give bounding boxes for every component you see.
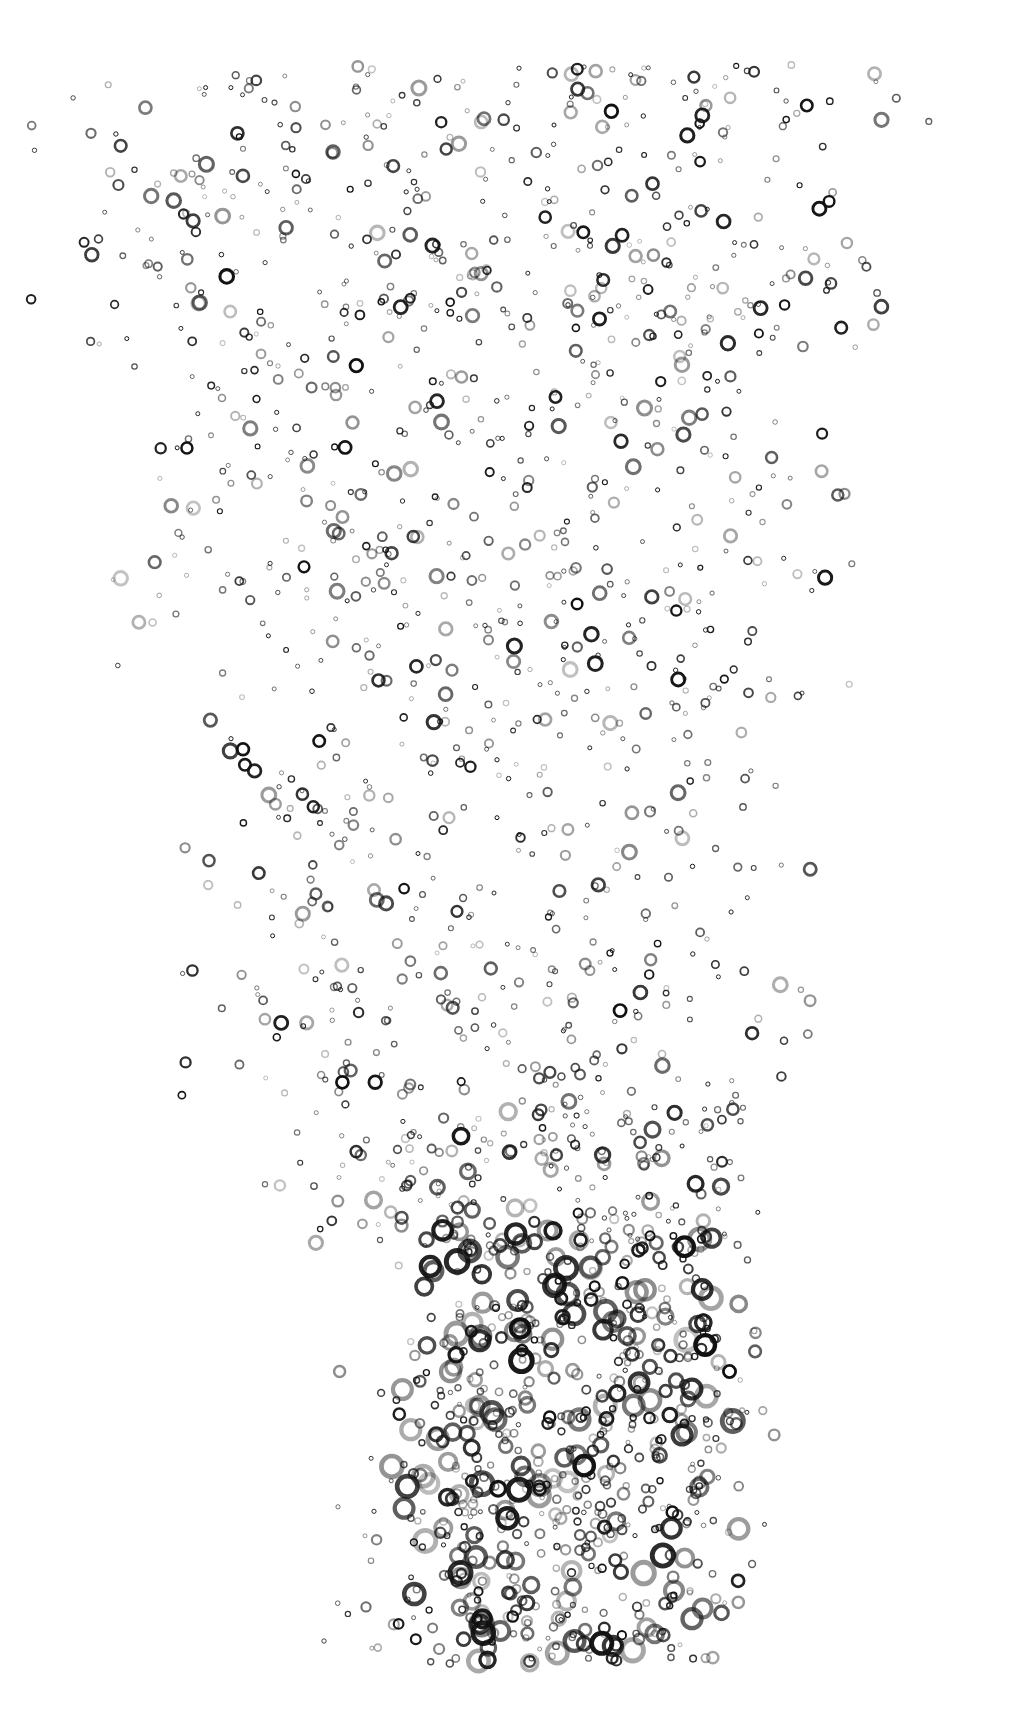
- bubble: [190, 375, 194, 379]
- bubble: [668, 1654, 674, 1660]
- bubble: [723, 454, 728, 459]
- bubble: [641, 278, 646, 283]
- bubble: [528, 667, 532, 671]
- bubble: [708, 1157, 713, 1162]
- bubble: [683, 411, 696, 424]
- bubble: [687, 778, 693, 784]
- bubble: [767, 677, 772, 682]
- bubble: [505, 237, 510, 242]
- bubble: [562, 461, 566, 465]
- bubble: [591, 381, 595, 385]
- bubble: [329, 336, 334, 341]
- bubble: [516, 848, 520, 852]
- bubble: [729, 498, 734, 503]
- bubble: [635, 1137, 646, 1148]
- bubble: [175, 446, 179, 450]
- bubble: [219, 395, 226, 402]
- bubble: [186, 283, 195, 292]
- bubble: [367, 549, 376, 558]
- bubble: [663, 1002, 670, 1009]
- bubble: [624, 1110, 631, 1117]
- bubble: [456, 1301, 462, 1307]
- bubble: [365, 180, 371, 186]
- bubble: [342, 739, 349, 746]
- bubble: [353, 86, 361, 94]
- bubble: [677, 655, 684, 662]
- bubble: [573, 642, 582, 651]
- bubble: [204, 714, 216, 726]
- bubble: [270, 889, 274, 893]
- bubble: [683, 688, 688, 693]
- bubble: [623, 1211, 627, 1215]
- bubble: [352, 592, 361, 601]
- bubble: [445, 990, 450, 995]
- bubble: [663, 990, 669, 996]
- bubble: [223, 189, 227, 193]
- bubble: [427, 715, 440, 728]
- bubble: [584, 1501, 591, 1508]
- bubble: [179, 326, 183, 330]
- bubble: [670, 1233, 676, 1239]
- bubble: [136, 228, 140, 232]
- bubble: [524, 178, 531, 185]
- bubble: [676, 1077, 681, 1082]
- bubble: [734, 1482, 743, 1491]
- bubble: [535, 531, 545, 541]
- bubble: [307, 876, 314, 883]
- bubble: [499, 1029, 507, 1037]
- bubble: [505, 311, 510, 316]
- bubble: [311, 630, 315, 634]
- bubble: [673, 524, 680, 531]
- bubble: [644, 285, 653, 294]
- bubble: [495, 399, 500, 404]
- bubble: [428, 1623, 437, 1632]
- bubble: [353, 556, 360, 563]
- bubble: [237, 170, 249, 182]
- bubble: [574, 1113, 579, 1118]
- bubble-field: [0, 0, 1020, 1728]
- bubble: [652, 1545, 673, 1566]
- bubble: [820, 143, 826, 149]
- bubble: [780, 300, 789, 309]
- bubble: [371, 226, 385, 240]
- bubble: [410, 1351, 419, 1360]
- bubble: [380, 1177, 385, 1182]
- bubble: [345, 795, 350, 800]
- bubble: [219, 252, 224, 257]
- bubble: [596, 1076, 601, 1081]
- bubble: [545, 1269, 551, 1275]
- bubble: [746, 1027, 758, 1039]
- bubble: [187, 502, 200, 515]
- bubble: [514, 762, 518, 766]
- bubble: [291, 123, 300, 132]
- bubble: [667, 238, 675, 246]
- bubble: [461, 805, 466, 810]
- bubble: [311, 1183, 317, 1189]
- bubble: [476, 1116, 481, 1121]
- bubble: [217, 509, 222, 514]
- bubble: [625, 487, 629, 491]
- bubble: [178, 1092, 185, 1099]
- bubble: [456, 759, 464, 767]
- bubble: [298, 1160, 303, 1165]
- bubble: [659, 1598, 670, 1609]
- bubble: [518, 1065, 526, 1073]
- bubble: [689, 344, 693, 348]
- bubble: [299, 561, 310, 572]
- bubble: [625, 1360, 631, 1366]
- bubble: [393, 939, 402, 948]
- bubble: [444, 707, 448, 711]
- bubble: [155, 181, 161, 187]
- bubble: [809, 254, 820, 265]
- bubble: [723, 1601, 727, 1605]
- bubble: [398, 525, 402, 529]
- bubble: [650, 1237, 662, 1249]
- bubble: [699, 1130, 703, 1134]
- bubble: [584, 898, 589, 903]
- bubble: [361, 1602, 370, 1611]
- bubble: [406, 956, 416, 966]
- bubble: [570, 345, 582, 357]
- bubble: [671, 80, 676, 85]
- bubble: [630, 250, 642, 262]
- bubble: [404, 228, 417, 241]
